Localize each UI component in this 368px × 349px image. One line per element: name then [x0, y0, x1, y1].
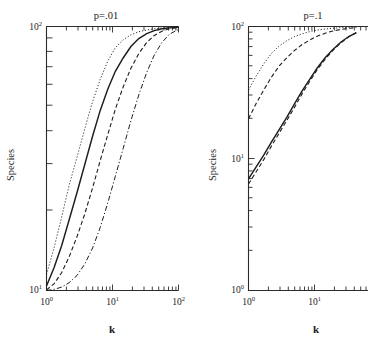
panel-right-xtick-1: 100: [242, 295, 255, 307]
panel-left-ytick-2: 101: [29, 283, 42, 295]
figure-canvas: p=.01: [0, 0, 368, 349]
panel-left-ytick-1: 102: [29, 20, 42, 32]
panel-right-series-4: [249, 33, 357, 184]
panel-right-ytick-2: 101: [231, 152, 244, 164]
panel-right-ytick-3: 100: [231, 283, 244, 295]
panel-right-series-3: [249, 33, 357, 179]
panel-right-x-ticks: [249, 285, 367, 291]
panel-left-series-2: [47, 27, 179, 286]
panel-right-series-2: [249, 28, 357, 119]
plot-svg: p=.01: [0, 0, 368, 349]
panel-right-top-ticks: [249, 27, 367, 33]
panel-left: p=.01: [5, 10, 185, 335]
panel-right: p=.1: [207, 10, 368, 335]
panel-left-axes: [47, 27, 179, 291]
panel-right-curves: [249, 27, 357, 184]
panel-left-x-ticks: [47, 285, 179, 291]
panel-right-y-ticks: [249, 27, 255, 291]
panel-right-series-1: [249, 27, 357, 90]
panel-left-curves: [47, 27, 179, 291]
panel-left-series-4: [47, 29, 179, 290]
panel-left-ylabel: Species: [5, 149, 16, 181]
panel-left-title: p=.01: [94, 10, 118, 21]
panel-right-xlabel: k: [313, 323, 320, 335]
panel-right-title: p=.1: [303, 10, 322, 21]
panel-left-series-1: [47, 27, 179, 275]
panel-left-xtick-2: 101: [106, 295, 119, 307]
panel-left-xlabel: k: [109, 323, 116, 335]
panel-left-xtick-3: 102: [172, 295, 185, 307]
panel-left-xtick-1: 100: [40, 295, 53, 307]
panel-left-series-3: [47, 27, 179, 290]
panel-right-ytick-1: 102: [231, 20, 244, 32]
panel-right-axes: [249, 27, 368, 291]
panel-right-ylabel: Species: [207, 149, 218, 181]
panel-right-xtick-2: 101: [308, 295, 321, 307]
panel-left-y-ticks: [47, 27, 53, 291]
